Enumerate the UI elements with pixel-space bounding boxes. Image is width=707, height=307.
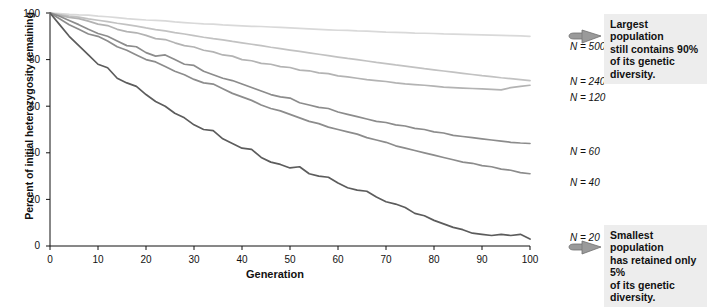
series-label-n240: N = 240 xyxy=(570,76,605,87)
callout-line-2: still contains 90% xyxy=(610,43,702,55)
series-label-n40: N = 40 xyxy=(570,177,600,188)
smallest-population-callout: Smallest population has retained only 5%… xyxy=(604,225,707,307)
pointing-hand-icon-bottom xyxy=(568,238,602,258)
pointing-hand-icon-top xyxy=(568,27,602,47)
callout-line-3: of its genetic diversity. xyxy=(610,279,702,304)
series-label-n60: N = 60 xyxy=(570,146,600,157)
callout-line-1: Largest population xyxy=(610,18,702,43)
callout-line-1: Smallest population xyxy=(610,229,702,254)
series-label-n120: N = 120 xyxy=(570,92,605,103)
callout-line-2: has retained only 5% xyxy=(610,254,702,279)
largest-population-callout: Largest population still contains 90% of… xyxy=(604,14,707,84)
callout-line-3: of its genetic diversity. xyxy=(610,55,702,80)
